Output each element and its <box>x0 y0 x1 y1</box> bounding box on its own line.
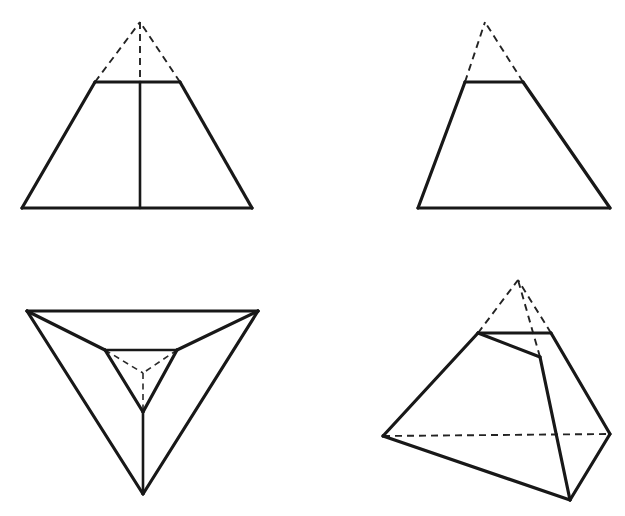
figure-sheet <box>0 0 625 516</box>
technical-drawing-canvas <box>0 0 625 516</box>
sheet-background <box>0 0 625 516</box>
